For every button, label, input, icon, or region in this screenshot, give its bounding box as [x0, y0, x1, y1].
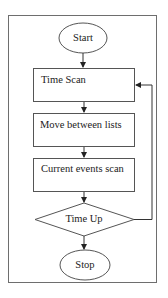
flowchart-shapes [0, 0, 168, 298]
time-up-label: Time Up [65, 213, 102, 225]
move-between-lists-label: Move between lists [40, 119, 122, 131]
flowchart-canvas: Start Time Scan Move between lists Curre… [0, 0, 168, 298]
loop-back-arrow [134, 85, 152, 220]
stop-label: Stop [75, 259, 94, 271]
start-label: Start [73, 32, 93, 44]
current-events-scan-label: Current events scan [41, 163, 124, 175]
time-scan-label: Time Scan [41, 74, 86, 86]
